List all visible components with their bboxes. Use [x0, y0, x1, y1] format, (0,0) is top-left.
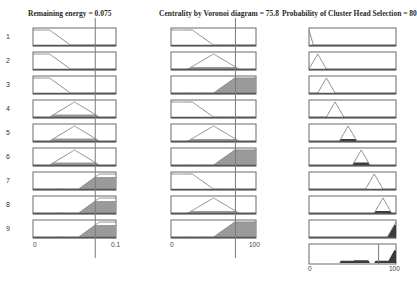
input-mf-box [33, 76, 116, 94]
output-mf-box [309, 220, 396, 238]
output-mf-box [309, 172, 396, 190]
output-mf-box [309, 100, 396, 118]
output-mf-box [309, 28, 396, 46]
input-mf-box [33, 52, 116, 70]
input-mf-box [171, 172, 256, 190]
input-mf-box [171, 28, 256, 46]
output-mf-box [309, 148, 396, 166]
input-mf-box [33, 28, 116, 46]
input-mf-box [171, 100, 256, 118]
